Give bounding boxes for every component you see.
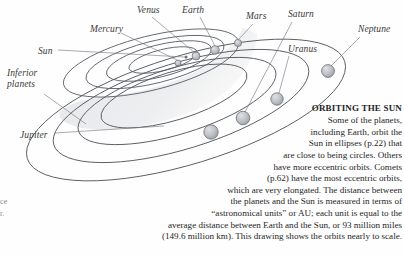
label-mars: Mars: [246, 11, 266, 22]
leader-line-uranus: [279, 56, 289, 93]
leader-line-neptune: [331, 37, 360, 66]
planet-earth: [211, 46, 220, 55]
planet-venus: [192, 52, 200, 60]
caption-line: which are very elongated. The distance b…: [150, 185, 402, 197]
caption-line: (149.6 million km). This drawing shows t…: [150, 231, 402, 243]
label-saturn: Saturn: [288, 9, 314, 20]
sun-marker: [184, 55, 187, 58]
planet-neptune: [322, 65, 335, 78]
caption-line: including Earth, orbit the: [150, 127, 402, 139]
label-sun: Sun: [38, 46, 53, 57]
label-venus: Venus: [137, 5, 160, 16]
caption-line: have more eccentric orbits. Comets: [150, 162, 402, 174]
clipped-edge-text-line: ce: [0, 196, 14, 208]
caption-line: Sun in ellipses (p.22) that: [150, 138, 402, 150]
clipped-edge-text: ce r.: [0, 196, 14, 220]
label-uranus: Uranus: [288, 44, 317, 55]
label-mercury: Mercury: [90, 24, 123, 35]
leader-line-mercury: [121, 33, 177, 60]
caption-line: are close to being circles. Others: [150, 150, 402, 162]
clipped-edge-text-line: r.: [0, 208, 14, 220]
caption-block: ORBITING THE SUN Some of the planets, in…: [150, 103, 402, 243]
figure-page: Sun Mercury Venus Earth Mars Saturn Uran…: [0, 0, 404, 256]
caption-line: (p.62) have the most eccentric orbits,: [150, 173, 402, 185]
caption-line: “astronomical units” or AU; each unit is…: [150, 208, 402, 220]
label-jupiter: Jupiter: [20, 130, 48, 141]
caption-heading: ORBITING THE SUN: [150, 103, 402, 115]
label-inferior-planets: Inferior planets: [7, 68, 55, 89]
planet-mercury: [175, 60, 181, 66]
label-neptune: Neptune: [358, 24, 390, 35]
planet-mars: [234, 39, 241, 46]
caption-line: the planets and the Sun is measured in t…: [150, 196, 402, 208]
label-earth: Earth: [182, 5, 204, 16]
caption-line: average distance between Earth and the S…: [150, 220, 402, 232]
caption-line: Some of the planets,: [150, 115, 402, 127]
